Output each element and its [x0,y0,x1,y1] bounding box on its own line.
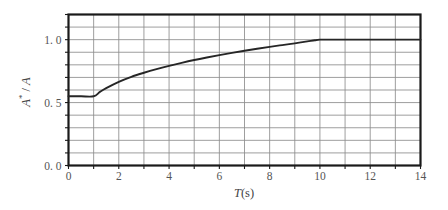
chart-figure: 02468101214 0. 00. 51. 0 T(s) A* / A [0,0,448,210]
plot-svg: 02468101214 0. 00. 51. 0 T(s) A* / A [0,0,448,210]
x-axis-tick-labels: 02468101214 [66,170,427,182]
x-axis-title: T(s) [234,186,254,200]
x-tick-label: 0 [66,170,72,182]
x-tick-label: 2 [116,170,122,182]
svg-text:A* / A: A* / A [17,77,33,108]
x-tick-label: 12 [364,170,376,182]
y-tick-label: 0. 5 [44,97,62,109]
x-tick-label: 14 [415,170,427,182]
y-axis-tick-labels: 0. 00. 51. 0 [44,34,62,172]
x-tick-label: 8 [267,170,273,182]
x-tick-label: 4 [166,170,172,182]
y-tick-label: 1. 0 [44,34,62,46]
x-tick-label: 10 [314,170,326,182]
x-tick-label: 6 [216,170,222,182]
y-tick-label: 0. 0 [44,160,62,172]
y-axis-title: A* / A [17,77,33,108]
